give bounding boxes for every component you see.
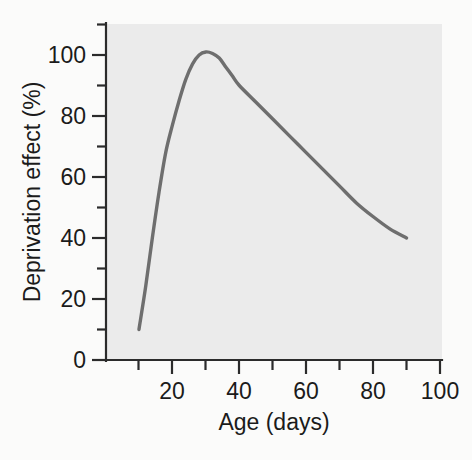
line-chart-svg: 0 20 40 60 80 100 20 40 60 80 100 Age (d…	[0, 0, 472, 460]
y-tick-label: 40	[60, 225, 86, 251]
y-tick-label: 80	[60, 103, 86, 129]
x-tick-label: 80	[360, 378, 386, 404]
x-axis-title: Age (days)	[218, 409, 329, 435]
y-tick-label: 100	[48, 42, 86, 68]
plot-area-background	[106, 24, 442, 360]
y-tick-label: 0	[73, 347, 86, 373]
y-tick-label: 20	[60, 286, 86, 312]
x-tick-label: 40	[226, 378, 252, 404]
y-tick-label: 60	[60, 164, 86, 190]
x-tick-label: 100	[421, 378, 459, 404]
chart-figure: 0 20 40 60 80 100 20 40 60 80 100 Age (d…	[0, 0, 472, 460]
y-axis-title: Deprivation effect (%)	[19, 82, 45, 303]
x-tick-label: 60	[293, 378, 319, 404]
x-tick-label: 20	[159, 378, 185, 404]
